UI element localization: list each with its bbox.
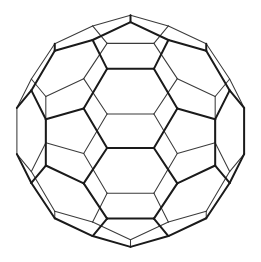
truncated-icosahedron-figure: [0, 0, 261, 262]
figure-root: [0, 0, 261, 262]
figure-background: [0, 0, 261, 262]
